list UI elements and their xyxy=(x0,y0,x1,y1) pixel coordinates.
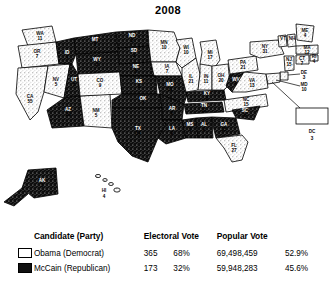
state-votes-WI: 10 xyxy=(183,50,189,55)
leader-line-DC xyxy=(272,82,300,108)
state-votes-MI: 17 xyxy=(207,55,213,60)
state-votes-TX: 34 xyxy=(135,131,141,136)
state-votes-ND: 3 xyxy=(131,38,134,43)
electoral-pct: 32% xyxy=(173,261,216,275)
state-votes-KS: 6 xyxy=(138,84,141,89)
electoral-map-figure: 2008 WA 11 OR 7 CA 55 xyxy=(0,0,336,290)
state-votes-CT: 7 xyxy=(301,61,304,66)
state-votes-DC: 3 xyxy=(311,136,314,141)
state-votes-AR: 6 xyxy=(171,111,174,116)
state-votes-MS: 6 xyxy=(189,127,192,132)
state-label-DC: DC xyxy=(309,129,316,134)
state-votes-SC: 8 xyxy=(244,113,247,118)
popular-votes: 69,498,459 xyxy=(217,247,285,261)
candidate-name: Obama (Democrat) xyxy=(34,247,144,261)
state-DE[interactable] xyxy=(280,72,288,80)
electoral-votes: 173 xyxy=(144,261,174,275)
state-votes-MA: 12 xyxy=(304,50,310,55)
state-MD[interactable] xyxy=(266,73,280,84)
state-votes-MN: 10 xyxy=(161,45,167,50)
state-votes-LA: 9 xyxy=(171,131,174,136)
state-votes-PA: 21 xyxy=(240,65,246,70)
figure-title: 2008 xyxy=(0,4,336,16)
state-votes-HI: 4 xyxy=(103,194,106,199)
leader-line-MD xyxy=(276,80,300,86)
popular-vote-header: Popular Vote xyxy=(217,232,324,247)
state-votes-TN: 11 xyxy=(202,108,207,113)
electoral-votes: 365 xyxy=(144,247,174,261)
state-votes-NY: 31 xyxy=(262,49,268,54)
state-votes-GA: 15 xyxy=(221,127,227,132)
state-OR[interactable] xyxy=(18,42,59,68)
state-votes-DE: 3 xyxy=(303,75,306,80)
state-votes-ME: 4 xyxy=(304,33,307,38)
state-votes-VA: 13 xyxy=(249,83,255,88)
state-votes-AL: 9 xyxy=(203,127,206,132)
state-votes-MO: 11 xyxy=(168,87,173,92)
state-votes-OR: 7 xyxy=(36,54,39,59)
popular-votes: 59,948,283 xyxy=(217,261,285,275)
state-votes-NE: 5 xyxy=(135,69,138,74)
electoral-vote-header: Electoral Vote xyxy=(144,232,217,247)
state-votes-FL: 27 xyxy=(231,148,237,153)
state-votes-SD: 3 xyxy=(133,53,136,58)
rep-swatch-icon xyxy=(18,263,32,273)
state-label-NH: NH xyxy=(289,36,296,41)
state-votes-MD: 10 xyxy=(301,87,307,92)
state-votes-UT: 5 xyxy=(73,82,76,87)
dc-callout-box[interactable] xyxy=(296,108,328,124)
state-votes-AZ: 10 xyxy=(65,112,71,117)
dem-swatch-icon xyxy=(18,248,32,258)
state-votes-MT: 3 xyxy=(94,42,97,47)
popular-pct: 45.6% xyxy=(285,261,324,275)
electoral-pct: 68% xyxy=(173,247,216,261)
state-votes-AK: 3 xyxy=(41,183,44,188)
state-HI[interactable] xyxy=(95,174,120,192)
leader-line-DE xyxy=(288,74,300,75)
state-votes-IL: 21 xyxy=(188,79,194,84)
state-CA[interactable] xyxy=(16,66,48,120)
state-votes-RI: 4 xyxy=(313,59,316,64)
state-votes-CA: 55 xyxy=(27,99,33,104)
state-votes-NC: 15 xyxy=(243,102,249,107)
state-votes-NM: 5 xyxy=(95,113,98,118)
state-votes-KY: 8 xyxy=(206,96,209,101)
state-votes-IN: 11 xyxy=(204,79,209,84)
results-legend-table: Candidate (Party) Electoral Vote Popular… xyxy=(18,232,324,276)
state-votes-WY: 3 xyxy=(96,62,99,67)
candidate-name: McCain (Republican) xyxy=(34,261,144,275)
swatch-header xyxy=(18,232,34,247)
state-AK-aleutians[interactable] xyxy=(4,188,28,206)
state-votes-OH: 20 xyxy=(218,78,224,83)
table-header-row: Candidate (Party) Electoral Vote Popular… xyxy=(18,232,324,247)
state-votes-CO: 9 xyxy=(99,83,102,88)
state-votes-WA: 11 xyxy=(38,36,43,41)
candidate-header: Candidate (Party) xyxy=(34,232,144,247)
state-votes-NJ: 15 xyxy=(286,62,292,67)
table-row: Obama (Democrat) 365 68% 69,498,459 52.9… xyxy=(18,247,324,261)
state-label-HI: HI xyxy=(102,188,107,193)
table-row: McCain (Republican) 173 32% 59,948,283 4… xyxy=(18,261,324,275)
state-votes-NV: 5 xyxy=(55,82,58,87)
state-votes-OK: 7 xyxy=(142,101,145,106)
state-votes-ID: 4 xyxy=(66,55,69,60)
us-electoral-map: WA 11 OR 7 CA 55 NV 5 ID 4 MT 3 WY 3 UT … xyxy=(0,16,336,228)
popular-pct: 52.9% xyxy=(285,247,324,261)
state-votes-IA: 7 xyxy=(166,69,169,74)
state-label-VT: VT xyxy=(280,36,286,41)
